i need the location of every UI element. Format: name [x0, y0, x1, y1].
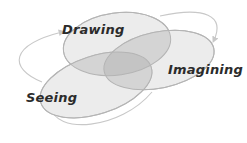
label-seeing: Seeing [26, 90, 77, 105]
label-drawing: Drawing [62, 22, 124, 37]
label-imagining: Imagining [168, 62, 243, 77]
